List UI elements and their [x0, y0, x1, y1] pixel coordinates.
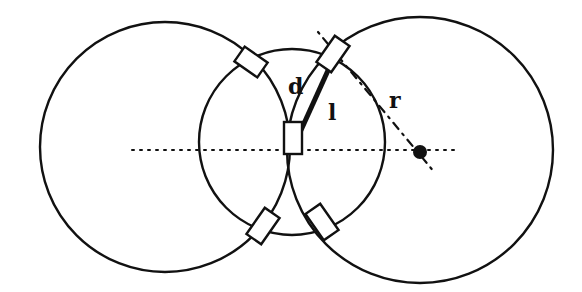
joint-box-bottom-left — [246, 208, 279, 245]
joint-box-bottom-right — [305, 204, 338, 241]
diagram-svg: d l r — [0, 0, 582, 292]
diagram-canvas: d l r — [0, 0, 582, 292]
label-d: d — [288, 73, 303, 99]
label-r: r — [389, 87, 401, 113]
joint-box-top-left — [234, 47, 267, 78]
joint-box-center — [284, 122, 302, 154]
label-l: l — [328, 99, 336, 125]
joint-box-top-right — [316, 36, 349, 73]
center-dot — [413, 145, 427, 159]
